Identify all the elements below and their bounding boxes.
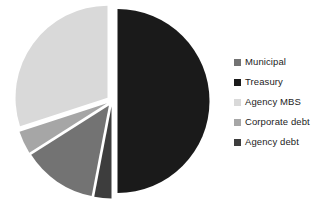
pie-slice-group xyxy=(16,6,210,199)
legend-swatch-municipal-icon xyxy=(234,59,241,66)
legend-label-municipal: Municipal xyxy=(245,57,286,67)
legend-swatch-treasury-icon xyxy=(234,79,241,86)
legend-label-treasury: Treasury xyxy=(245,77,283,87)
pie-chart-svg xyxy=(0,0,222,203)
legend-label-corporate-debt: Corporate debt xyxy=(245,117,310,127)
legend-swatch-agency-debt-icon xyxy=(234,139,241,146)
legend-item-agency-mbs[interactable]: Agency MBS xyxy=(234,92,334,112)
pie-slice-treasury[interactable] xyxy=(118,9,210,193)
legend-item-treasury[interactable]: Treasury xyxy=(234,72,334,92)
pie-chart-screenshot: Municipal Treasury Agency MBS Corporate … xyxy=(0,0,336,203)
legend-label-agency-mbs: Agency MBS xyxy=(245,97,301,107)
legend-label-agency-debt: Agency debt xyxy=(245,137,299,147)
pie-chart-plot-area xyxy=(0,0,222,203)
legend-swatch-corporate-debt-icon xyxy=(234,119,241,126)
legend-item-municipal[interactable]: Municipal xyxy=(234,52,334,72)
legend-item-agency-debt[interactable]: Agency debt xyxy=(234,132,334,152)
chart-legend: Municipal Treasury Agency MBS Corporate … xyxy=(234,52,334,152)
legend-item-corporate-debt[interactable]: Corporate debt xyxy=(234,112,334,132)
legend-swatch-agency-mbs-icon xyxy=(234,99,241,106)
